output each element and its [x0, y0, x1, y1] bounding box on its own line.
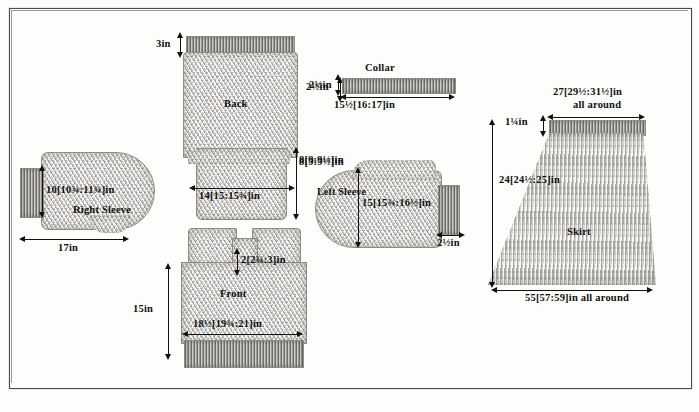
collar-body [342, 78, 456, 94]
back-width-arrow-left [189, 185, 195, 191]
collar-label: Collar [365, 62, 395, 73]
back-width-arrow-right [289, 185, 295, 191]
front-body [181, 262, 307, 344]
front-width-arrow-right [297, 331, 303, 337]
left-sleeve-height-dim-line [358, 172, 359, 244]
collar-height-arrow-up [335, 74, 341, 80]
left-sleeve-cuff [438, 185, 460, 235]
front-width-arrow-left [182, 331, 188, 337]
right-sleeve-width-dim: 17in [58, 242, 78, 253]
left-sleeve-body [315, 170, 442, 248]
collar-height-dim: 2½in [309, 79, 332, 90]
skirt-length-dim-line [492, 124, 493, 284]
left-sleeve-height-arrow-down [355, 242, 361, 248]
skirt-hem-dim: 55[57:59]in all around [525, 292, 629, 303]
right-sleeve-height-dim-line [42, 170, 43, 214]
skirt-waistband-arrow-up [540, 115, 546, 121]
front-neck-arrow-down [234, 270, 240, 276]
skirt-waistband-dim: 1¼in [505, 116, 528, 127]
back-armhole-arrow-up [293, 147, 299, 153]
front-height-dim-line [168, 268, 169, 356]
back-armhole-shaping [188, 150, 290, 164]
left-sleeve-height-arrow-up [355, 167, 361, 173]
skirt-top-dim-line [552, 117, 640, 118]
skirt-hem-arrow-left [491, 287, 497, 293]
skirt-label: Skirt [567, 226, 591, 237]
collar-width-dim: 15½[16:17]in [334, 99, 395, 110]
right-sleeve-height-arrow-down [39, 212, 45, 218]
front-bottom-ribbing [184, 340, 304, 368]
front-height-dim: 15in [133, 303, 153, 314]
skirt-length-arrow-up [489, 119, 495, 125]
back-armhole-arrow-down [293, 214, 299, 220]
front-label: Front [220, 288, 246, 299]
front-height-arrow-up [165, 263, 171, 269]
collar-width-arrow-right [449, 94, 455, 100]
back-width-dim: 14[15:15¾]in [199, 190, 260, 201]
right-sleeve-width-dim-line [24, 239, 124, 240]
skirt-top-width-note: all around [573, 99, 621, 110]
right-sleeve-width-arrow-right [123, 236, 129, 242]
front-height-arrow-down [165, 354, 171, 360]
front-neck-dim: 2[2¾:3]in [241, 254, 286, 265]
left-sleeve-upper-shape [352, 160, 436, 180]
schematic-page: Back 3in 2½in 8[9:9½]in 14[15:15¾]in Col… [0, 0, 699, 412]
right-sleeve-label: Right Sleeve [73, 204, 131, 215]
skirt-top-width-dim: 27[29½:31½]in [553, 86, 622, 97]
right-sleeve-height-arrow-up [39, 165, 45, 171]
right-sleeve-lower-shape [90, 215, 130, 233]
back-top-rib-dim: 3in [156, 38, 171, 49]
left-sleeve-cuff-dim: 2½in [437, 237, 460, 248]
skirt-waistband-arrow-down [540, 131, 546, 137]
back-armhole-dim-line [296, 152, 297, 216]
back-rib-arrow-up [177, 32, 183, 38]
skirt-hem-arrow-right [647, 287, 653, 293]
right-sleeve-width-arrow-left [19, 236, 25, 242]
right-sleeve-cuff [20, 168, 44, 218]
left-sleeve-label: Left Sleeve [317, 186, 359, 197]
left-sleeve-top-dim: 8[9:9½]in [299, 156, 344, 167]
left-sleeve-height-dim: 15[15¾:16½]in [362, 197, 431, 208]
front-width-dim: 18½[19¾:21]in [193, 318, 262, 329]
front-width-dim-line [187, 334, 298, 335]
skirt-length-dim: 24[24½:25]in [499, 174, 560, 185]
right-sleeve-height-dim: 10[10¾:11¾]in [46, 184, 115, 195]
back-rib-arrow-down [177, 52, 183, 58]
left-sleeve-cuff-arrow-right [459, 232, 465, 238]
front-neck-arrow-up [234, 248, 240, 254]
back-label: Back [224, 98, 248, 109]
